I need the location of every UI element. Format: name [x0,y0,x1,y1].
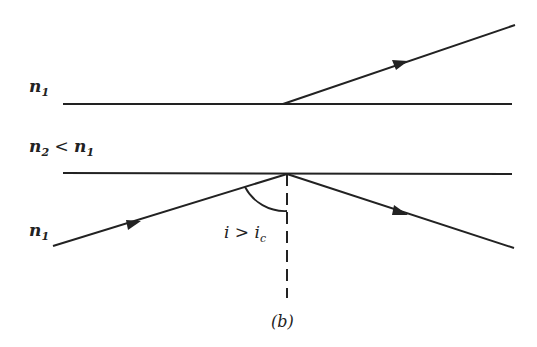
incident-ray-arrow-icon [126,220,141,230]
label-bottom-medium: n1 [29,220,49,243]
label-middle-medium: n2 < n1 [29,136,94,159]
angle-label: i > ic [224,222,266,245]
total-internal-reflection-diagram: n1 n2 < n1 n1 i > ic (b) [0,0,537,347]
reflected-ray-arrow-icon [392,205,408,215]
figure-caption: (b) [271,312,294,331]
angle-arc [245,187,287,211]
transmitted-ray-arrow-icon [392,60,408,70]
label-top-medium: n1 [29,76,49,99]
